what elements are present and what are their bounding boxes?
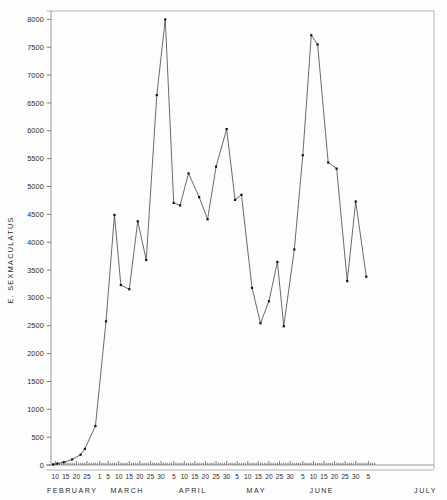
data-point-marker [94, 425, 96, 427]
x-tick-label: 25 [83, 473, 91, 480]
data-point-marker [206, 218, 208, 220]
x-tick-label: 5 [106, 473, 110, 480]
data-point-marker [63, 461, 65, 463]
x-axis-month-label: MARCH [110, 487, 144, 495]
y-tick-label: 3500 [27, 266, 44, 275]
data-point-marker [327, 161, 329, 163]
data-point-marker [268, 300, 270, 302]
chart-figure: 0500100015002000250030003500400045005000… [0, 0, 447, 500]
data-point-marker [226, 128, 228, 130]
x-tick-label: 25 [212, 473, 220, 480]
x-tick-label: 15 [126, 473, 134, 480]
y-tick-label: 3000 [27, 293, 44, 302]
x-tick-label: 25 [276, 473, 284, 480]
x-tick-label: 10 [181, 473, 189, 480]
x-axis-month-label: JUNE [310, 487, 335, 495]
x-tick-label: 25 [147, 473, 155, 480]
y-tick-label: 2500 [27, 321, 44, 330]
data-point-marker [145, 259, 147, 261]
data-point-marker [317, 43, 319, 45]
series-polyline [53, 19, 366, 464]
x-tick-label: 1 [98, 473, 102, 480]
x-tick-label: 10 [115, 473, 123, 480]
x-tick-label: 20 [265, 473, 273, 480]
data-point-marker [137, 220, 139, 222]
data-point-markers [52, 18, 367, 465]
y-tick-label: 7000 [27, 71, 44, 80]
y-tick-label: 5000 [27, 182, 44, 191]
data-point-marker [293, 248, 295, 250]
data-point-marker [156, 94, 158, 96]
data-point-marker [259, 322, 261, 324]
y-tick-label: 1000 [27, 405, 44, 414]
data-point-marker [113, 214, 115, 216]
x-axis-month-label: FEBRUARY [47, 487, 98, 495]
x-tick-label: 20 [136, 473, 144, 480]
data-point-marker [240, 194, 242, 196]
data-point-marker [198, 196, 200, 198]
data-point-marker [164, 18, 166, 20]
data-point-marker [173, 202, 175, 204]
data-point-marker [179, 204, 181, 206]
plot-frame [46, 11, 434, 470]
y-tick-label: 500 [31, 433, 44, 442]
y-tick-label: 1500 [27, 377, 44, 386]
data-point-marker [346, 280, 348, 282]
x-tick-label: 30 [352, 473, 360, 480]
x-tick-label: 30 [157, 473, 165, 480]
x-tick-label: 15 [62, 473, 70, 480]
x-tick-label: 15 [191, 473, 199, 480]
y-tick-label: 6000 [27, 126, 44, 135]
y-axis-ticks: 0500100015002000250030003500400045005000… [27, 15, 51, 470]
x-tick-label: 10 [244, 473, 252, 480]
data-point-marker [251, 287, 253, 289]
x-tick-label: 5 [367, 473, 371, 480]
data-point-marker [276, 261, 278, 263]
x-tick-label: 30 [286, 473, 294, 480]
x-tick-label: 10 [310, 473, 318, 480]
x-axis-month-labels: FEBRUARYMARCHAPRILMAYJUNEJULY [47, 487, 437, 495]
data-point-marker [187, 172, 189, 174]
data-point-marker [215, 166, 217, 168]
data-point-marker [365, 276, 367, 278]
x-tick-label: 20 [331, 473, 339, 480]
x-tick-label: 5 [301, 473, 305, 480]
data-point-marker [128, 288, 130, 290]
data-point-marker [302, 154, 304, 156]
y-tick-label: 8000 [27, 15, 44, 24]
x-axis-month-label: MAY [247, 487, 266, 495]
x-tick-label: 5 [235, 473, 239, 480]
data-point-marker [56, 463, 58, 465]
data-point-marker [283, 325, 285, 327]
x-tick-label: 10 [52, 473, 60, 480]
x-tick-label: 15 [255, 473, 263, 480]
y-tick-label: 0 [40, 461, 44, 470]
data-point-marker [84, 448, 86, 450]
data-point-marker [71, 458, 73, 460]
line-chart-svg: 0500100015002000250030003500400045005000… [0, 0, 447, 500]
x-tick-label: 20 [202, 473, 210, 480]
y-tick-label: 4000 [27, 238, 44, 247]
x-tick-label: 5 [172, 473, 176, 480]
x-tick-label: 20 [73, 473, 81, 480]
data-point-marker [80, 454, 82, 456]
data-point-marker [234, 199, 236, 201]
x-axis-month-label: APRIL [179, 487, 207, 495]
y-tick-label: 5500 [27, 154, 44, 163]
data-series-line [53, 19, 366, 464]
y-axis-title: E. SEXMACULATUS [6, 216, 15, 303]
data-point-marker [310, 34, 312, 36]
x-tick-label: 15 [320, 473, 328, 480]
x-axis-month-label: JULY [414, 487, 437, 495]
data-point-marker [52, 463, 54, 465]
x-tick-label: 30 [223, 473, 231, 480]
y-tick-label: 7500 [27, 43, 44, 52]
data-point-marker [105, 320, 107, 322]
x-tick-label: 25 [341, 473, 349, 480]
y-tick-label: 4500 [27, 210, 44, 219]
y-tick-label: 2000 [27, 349, 44, 358]
data-point-marker [336, 168, 338, 170]
y-axis-title-text: E. SEXMACULATUS [6, 216, 15, 303]
y-tick-label: 6500 [27, 99, 44, 108]
data-point-marker [355, 200, 357, 202]
